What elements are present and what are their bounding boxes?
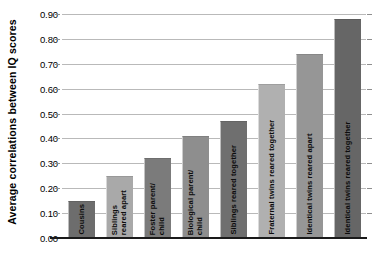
y-axis-tick-mark [55,213,60,214]
y-axis-title: Average correlations between IQ scores [0,0,24,243]
y-axis-tick-mark [55,114,60,115]
y-axis-tick-mark [55,64,60,65]
y-axis-tick-mark [55,89,60,90]
bar-category-label-line: Foster parent/ [149,183,158,235]
y-axis-tick-mark [55,138,60,139]
bar-category-label-line: Identical twins reared together [343,122,352,235]
x-axis-baseline-tick [50,237,56,239]
bar: Biological parent/child [182,136,209,238]
bar: Cousins [68,201,95,238]
y-axis-tick-mark-right [367,64,372,65]
bar: Siblings reared together [220,121,247,238]
y-axis-tick-mark-right [367,213,372,214]
gridline [62,39,366,40]
bar: Siblingsreared apart [106,176,133,238]
bar-category-label-line: Identical twins reared apart [305,134,314,235]
bar-category-label-line: child [158,183,167,235]
y-axis-tick-mark-right [367,188,372,189]
bar-category-label-line: Fraternal twins reared together [267,120,276,235]
bar-category-label-line: Siblings reared together [229,145,238,235]
y-axis-tick-mark [55,39,60,40]
bar: Foster parent/child [144,158,171,238]
bar-category-label-line: child [196,169,205,235]
bar: Fraternal twins reared together [258,84,285,238]
bar: Identical twins reared together [334,19,361,238]
plot-area: CousinsSiblingsreared apartFoster parent… [62,14,366,238]
bar-category-label: Identical twins reared together [348,226,373,235]
y-axis-title-text: Average correlations between IQ scores [6,19,18,224]
gridline [62,14,366,15]
y-axis-tick-mark-right [367,89,372,90]
bar-category-label-line: Cousins [77,204,86,235]
y-axis-tick-mark-right [367,163,372,164]
y-axis-tick-mark-right [367,39,372,40]
bar-category-label-line: Biological parent/ [187,169,196,235]
y-axis-tick-mark-right [367,114,372,115]
y-axis-tick-mark [55,188,60,189]
bar: Identical twins reared apart [296,54,323,238]
x-axis-baseline [55,237,367,239]
bar-category-label-line: Siblings [111,190,120,235]
y-axis-tick-mark [55,163,60,164]
y-axis-tick-mark-right [367,14,372,15]
bar-category-label-line: reared apart [120,190,129,235]
iq-correlation-bar-chart: Average correlations between IQ scores 0… [0,0,373,256]
y-axis-tick-mark-right [367,138,372,139]
y-axis-tick-mark [55,14,60,15]
